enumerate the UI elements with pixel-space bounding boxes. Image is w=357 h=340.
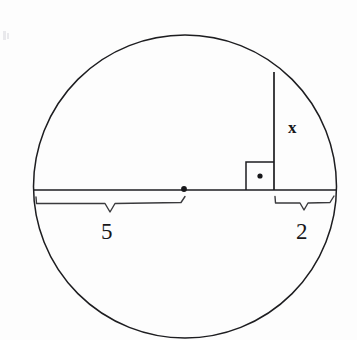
scan-artifact bbox=[7, 33, 9, 39]
right-angle-dot-icon bbox=[257, 173, 262, 178]
left-segment-length-label: 5 bbox=[101, 220, 113, 243]
brace-left-measure bbox=[36, 197, 185, 213]
right-segment-length-label: 2 bbox=[296, 220, 308, 243]
center-dot-icon bbox=[181, 186, 187, 192]
geometry-canvas bbox=[0, 0, 357, 340]
geometry-figure: x 5 2 bbox=[0, 0, 357, 340]
chord-length-label-x: x bbox=[288, 119, 297, 136]
scan-artifact bbox=[3, 31, 6, 40]
brace-right-measure bbox=[275, 196, 334, 210]
